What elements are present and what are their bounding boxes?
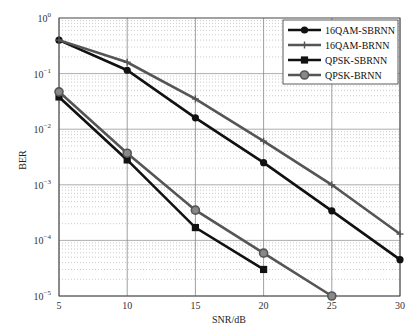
x-tick-label: 30: [395, 300, 405, 311]
legend-item: QPSK-BRNN: [288, 70, 382, 81]
y-tick-label: 10−4: [34, 233, 52, 246]
x-tick-label: 15: [190, 300, 200, 311]
y-axis-label: BER: [17, 150, 28, 170]
legend-label: QPSK-SBRNN: [325, 55, 387, 66]
x-tick-label: 20: [259, 300, 269, 311]
legend-label: 16QAM-SBRNN: [325, 25, 395, 36]
x-axis-label: SNR/dB: [212, 314, 246, 325]
y-tick-label: 10−2: [34, 122, 52, 135]
y-tick-label: 100: [38, 11, 52, 24]
x-tick-label: 5: [57, 300, 62, 311]
legend-label: QPSK-BRNN: [325, 70, 382, 81]
y-tick-label: 10−1: [34, 67, 52, 80]
ber-chart: 5101520253010010−110−210−310−410−5 SNR/d…: [0, 0, 420, 336]
legend: 16QAM-SBRNN16QAM-BRNNQPSK-SBRNNQPSK-BRNN: [283, 20, 398, 84]
y-tick-label: 10−3: [34, 178, 52, 191]
x-tick-label: 10: [122, 300, 132, 311]
y-tick-label: 10−5: [34, 289, 52, 302]
legend-label: 16QAM-BRNN: [325, 40, 389, 51]
x-tick-label: 25: [327, 300, 337, 311]
